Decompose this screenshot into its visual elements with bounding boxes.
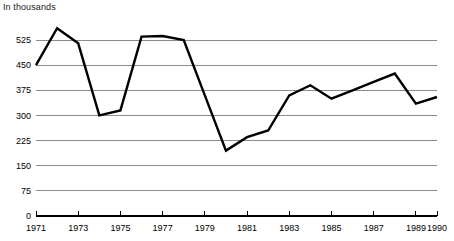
y-axis-tick-label: 225 <box>16 136 31 146</box>
x-axis-tick-label: 1989 <box>406 223 426 233</box>
x-axis-tick-label: 1975 <box>110 223 130 233</box>
x-axis-tick-label: 1981 <box>237 223 257 233</box>
x-axis-tick-label: 1983 <box>279 223 299 233</box>
plot-area: 075150225300375450525 197119731975197719… <box>0 0 454 241</box>
y-axis-tick-label: 150 <box>16 161 31 171</box>
x-axis-labels: 1971197319751977197919811983198519871989… <box>26 223 447 233</box>
x-axis-tick-label: 1977 <box>153 223 173 233</box>
y-axis-tick-label: 75 <box>21 186 31 196</box>
x-axis-tick-label: 1973 <box>68 223 88 233</box>
x-axis-tick-label: 1990 <box>427 223 447 233</box>
x-axis <box>36 211 437 216</box>
y-axis-tick-label: 375 <box>16 85 31 95</box>
y-axis-tick-label: 300 <box>16 111 31 121</box>
x-axis-tick-label: 1979 <box>195 223 215 233</box>
x-axis-tick-label: 1987 <box>364 223 384 233</box>
line-chart: In thousands 075150225300375450525 19711… <box>0 0 454 241</box>
y-axis-tick-label: 450 <box>16 60 31 70</box>
y-axis-tick-label: 525 <box>16 35 31 45</box>
data-series-line <box>36 28 437 150</box>
x-axis-tick-label: 1971 <box>26 223 46 233</box>
x-axis-tick-label: 1985 <box>321 223 341 233</box>
gridlines <box>36 40 437 191</box>
y-axis-tick-label: 0 <box>26 211 31 221</box>
y-axis-labels: 075150225300375450525 <box>16 35 31 221</box>
